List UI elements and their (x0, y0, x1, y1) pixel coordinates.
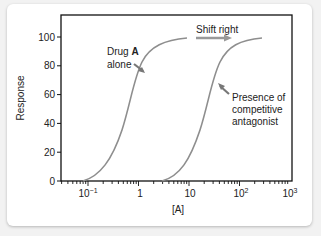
x-axis-labels: 10−1 1 10 102 103 (78, 187, 297, 199)
annotation-drug-a: Drug A (107, 46, 139, 57)
curve-drug-a-alone (83, 38, 187, 181)
annotation-competitive: competitive (232, 104, 283, 115)
svg-text:100: 100 (38, 32, 55, 43)
svg-text:10−1: 10−1 (78, 187, 97, 199)
svg-text:10: 10 (184, 188, 196, 199)
svg-text:20: 20 (44, 147, 56, 158)
svg-text:1: 1 (137, 188, 143, 199)
svg-text:60: 60 (44, 89, 56, 100)
dose-response-chart: 0 20 40 60 80 100 Response 10−1 1 10 102… (0, 0, 321, 236)
svg-text:0: 0 (49, 176, 55, 187)
x-axis-ticks (62, 181, 288, 186)
y-axis-labels: 0 20 40 60 80 100 (38, 32, 55, 187)
svg-text:40: 40 (44, 118, 56, 129)
annotation-shift-right: Shift right (196, 24, 238, 35)
svg-text:102: 102 (233, 187, 248, 199)
annotation-alone: alone (107, 59, 132, 70)
svg-text:80: 80 (44, 60, 56, 71)
x-axis-title: [A] (172, 204, 184, 215)
svg-text:103: 103 (282, 187, 297, 199)
annotation-antagonist: antagonist (232, 116, 278, 127)
y-axis-title: Response (15, 75, 26, 120)
annotation-presence: Presence of (232, 92, 286, 103)
